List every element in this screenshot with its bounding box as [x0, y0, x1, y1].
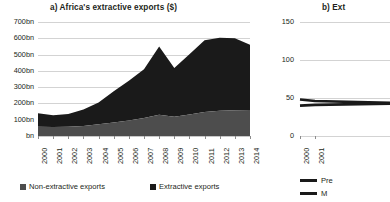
chart-b-x-tick [315, 136, 316, 139]
chart-a-x-label: 2013 [238, 148, 245, 164]
legend-label: Non-extractive exports [29, 182, 105, 191]
chart-b-legend-item: Pre [300, 176, 333, 185]
chart-a-x-tick [38, 136, 39, 139]
chart-a-x-tick [99, 136, 100, 139]
chart-a-x-label: 2004 [102, 148, 109, 164]
chart-a-x-label: 2001 [56, 148, 63, 164]
chart-a-y-label: 100bn [0, 116, 34, 123]
chart-b-x-tick [300, 136, 301, 139]
chart-a-x-label: 2009 [177, 148, 184, 164]
chart-b-series-group [300, 22, 390, 136]
chart-a-x-tick [250, 136, 251, 139]
legend-label: Pre [321, 176, 333, 185]
legend-swatch [20, 184, 26, 190]
chart-b-y-label: 100 [268, 56, 294, 63]
chart-a-x-tick [159, 136, 160, 139]
chart-panel-b: b) Ext 150100500 20002001 PreM [268, 0, 365, 202]
chart-a-x-tick [144, 136, 145, 139]
chart-a-x-tick [68, 136, 69, 139]
chart-panel-a: a) Africa's extractive exports ($) 700bn… [0, 0, 268, 202]
chart-a-series-group [38, 22, 250, 136]
chart-a-x-tick [83, 136, 84, 139]
chart-b-x-label: 2000 [303, 148, 310, 164]
legend-line-swatch [300, 179, 317, 182]
chart-a-x-tick [53, 136, 54, 139]
chart-a-x-label: 2006 [132, 148, 139, 164]
chart-a-x-label: 2008 [162, 148, 169, 164]
chart-a-y-label: 300bn [0, 83, 34, 90]
chart-a-x-label: 2002 [71, 148, 78, 164]
chart-a-y-label: 600bn [0, 34, 34, 41]
chart-a-x-tick [129, 136, 130, 139]
chart-a-legend-item: Non-extractive exports [20, 182, 105, 191]
legend-line-swatch [300, 192, 317, 195]
chart-a-x-tick [235, 136, 236, 139]
chart-b-legend-item: M [300, 189, 327, 198]
chart-a-legend: Non-extractive exportsExtractive exports [0, 180, 268, 194]
chart-a-x-label: 2003 [86, 148, 93, 164]
chart-a-x-tick [114, 136, 115, 139]
chart-a-x-tick [220, 136, 221, 139]
chart-a-x-label: 2000 [41, 148, 48, 164]
chart-b-y-label: 0 [268, 132, 294, 139]
chart-a-x-tick [189, 136, 190, 139]
legend-swatch [150, 184, 156, 190]
chart-a-x-tick [174, 136, 175, 139]
chart-a-y-label: bn [0, 132, 34, 139]
chart-b-y-label: 150 [268, 18, 294, 25]
chart-b-y-label: 50 [268, 94, 294, 101]
chart-b-plot-area [300, 22, 390, 136]
chart-b-title: b) Ext [322, 3, 345, 12]
chart-a-x-label: 2005 [117, 148, 124, 164]
chart-a-x-label: 2007 [147, 148, 154, 164]
chart-b-gridline [300, 136, 390, 137]
legend-label: Extractive exports [159, 182, 219, 191]
legend-label: M [321, 189, 327, 198]
chart-a-x-label: 2012 [223, 148, 230, 164]
chart-a-y-label: 500bn [0, 51, 34, 58]
chart-a-x-tick [205, 136, 206, 139]
chart-a-x-label: 2010 [192, 148, 199, 164]
chart-b-x-label: 2001 [318, 148, 325, 164]
chart-a-y-label: 700bn [0, 18, 34, 25]
chart-a-y-label: 200bn [0, 99, 34, 106]
chart-b-line-1 [300, 103, 390, 105]
chart-a-x-label: 2011 [208, 148, 215, 164]
chart-a-y-label: 400bn [0, 67, 34, 74]
chart-a-plot-area [38, 22, 250, 136]
chart-a-title: a) Africa's extractive exports ($) [50, 3, 177, 12]
chart-a-legend-item: Extractive exports [150, 182, 219, 191]
chart-a-x-label: 2014 [253, 148, 260, 164]
